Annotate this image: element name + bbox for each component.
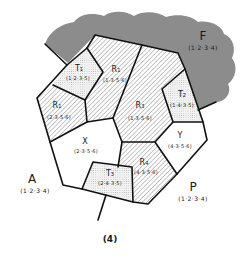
label-t3-name: T₃ [105,169,114,178]
label-a-name: A [28,172,37,186]
label-p-name: P [189,180,196,194]
label-r2-name: R₁ [53,101,62,110]
label-r1-name: R₁ [112,65,121,74]
label-p: P (1·2·3·4) [178,180,207,202]
label-f-name: F [200,29,207,43]
territory-diagram: F (1·2·3·4) A (1·2·3·4) P (1·2·3·4) T₁ (… [0,0,251,258]
label-x-code: (2·3·5·6) [74,148,98,154]
label-t2-name: T₂ [177,90,186,99]
label-x-name: X [82,137,88,146]
label-t3-code: (2·4·3·5) [98,180,122,186]
label-r3-code: (1·3·5·6) [128,115,152,121]
label-t1-name: T₁ [74,64,83,73]
label-r2-code: (2·3·5·6) [47,114,71,120]
label-r3-name: R₃ [136,101,145,110]
label-t1-code: (1·2·3·5) [66,75,90,81]
label-t2-code: (1·4·3·5) [170,102,194,108]
label-y-name: Y [177,131,183,140]
figure-label: (4) [103,234,118,244]
label-a-code: (1·2·3·4) [20,187,49,194]
label-y-code: (4·3·5·6) [168,143,192,149]
label-f-code: (1·2·3·4) [188,44,217,51]
label-a: A (1·2·3·4) [20,172,49,194]
label-r4-code: (4·3·5·6) [134,169,158,175]
label-p-code: (1·2·3·4) [178,195,207,202]
label-r1-code: (1·3·5·6) [103,77,127,83]
label-r4-name: R₄ [140,158,149,167]
